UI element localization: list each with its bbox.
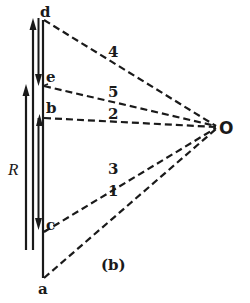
point-label-a: a [38, 280, 48, 298]
line-4 [44, 20, 216, 126]
point-label-O: O [219, 118, 233, 138]
point-label-d: d [40, 3, 51, 21]
current-arrow-down-bottom [35, 118, 42, 230]
arrow-down-icon [35, 74, 42, 86]
line-label-3: 3 [108, 160, 118, 178]
point-label-b: b [46, 99, 57, 117]
line-label-2: 2 [108, 105, 118, 123]
point-label-c: c [46, 216, 55, 234]
main-wire [43, 20, 48, 278]
arrow-up-icon [23, 84, 30, 96]
point-label-e: e [46, 68, 56, 86]
dashed-lines [44, 20, 216, 278]
line-label-4: 4 [108, 43, 118, 61]
line-3 [44, 128, 216, 232]
line-1 [44, 129, 216, 278]
line-label-1: 1 [108, 182, 118, 200]
current-arrow-down-top [35, 18, 42, 86]
resistor-label-R: R [7, 160, 19, 179]
line-label-5: 5 [108, 83, 118, 101]
arrow-up-icon [30, 18, 37, 30]
wire-field-diagram: d e b c a 4 5 2 3 1 O R (b) [0, 0, 250, 303]
current-arrow-R [23, 84, 30, 250]
figure-caption: (b) [101, 256, 126, 274]
current-arrow-up-outer [30, 18, 37, 250]
arrow-down-icon [35, 218, 42, 230]
